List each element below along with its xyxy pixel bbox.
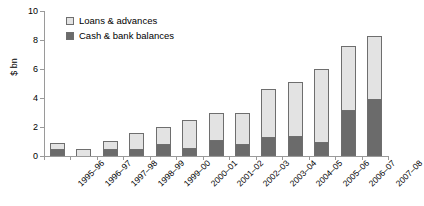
bar-segment-loans-advances <box>182 120 197 148</box>
bar-segment-cash-bank-balances <box>129 149 144 156</box>
bar-stack <box>261 89 276 156</box>
bar-segment-cash-bank-balances <box>288 136 303 156</box>
x-axis-tick-label: 1997–98 <box>129 158 159 188</box>
legend-swatch-icon <box>66 17 74 25</box>
bar-stack <box>76 149 91 156</box>
x-axis-tick-label: 2001–02 <box>235 158 265 188</box>
y-axis-tick-label: 4 <box>33 93 38 103</box>
bar-segment-loans-advances <box>341 46 356 110</box>
bar-stack <box>156 127 171 156</box>
y-axis-tick-label: 2 <box>33 122 38 132</box>
bar-stack <box>288 82 303 156</box>
legend-item-label: Cash & bank balances <box>79 30 174 41</box>
x-axis-tick-label: 2005–06 <box>341 158 371 188</box>
y-axis-tick-label: 8 <box>33 35 38 45</box>
y-axis-tick-label: 6 <box>33 64 38 74</box>
bar-segment-loans-advances <box>156 127 171 144</box>
x-axis-tick-label: 1999–00 <box>182 158 212 188</box>
bar-segment-cash-bank-balances <box>235 144 250 156</box>
bar-segment-cash-bank-balances <box>103 149 118 156</box>
bar-segment-loans-advances <box>314 69 329 142</box>
bar-segment-loans-advances <box>129 133 144 149</box>
x-axis-tick-label: 2006–07 <box>367 158 397 188</box>
bar-stack <box>182 120 197 156</box>
legend-item: Loans & advances <box>66 15 174 26</box>
bar-stack <box>341 46 356 156</box>
bar-segment-loans-advances <box>103 141 118 149</box>
y-axis-tick-label: 10 <box>28 6 38 16</box>
bar-segment-loans-advances <box>76 149 91 156</box>
bar-stack <box>209 113 224 156</box>
bar-segment-cash-bank-balances <box>50 149 65 156</box>
x-axis-tick-label: 2000–01 <box>208 158 238 188</box>
x-axis-tick-label: 2002–03 <box>261 158 291 188</box>
bar-stack <box>367 36 382 156</box>
legend-item-label: Loans & advances <box>79 15 157 26</box>
bar-segment-loans-advances <box>235 113 250 145</box>
bar-segment-cash-bank-balances <box>261 137 276 156</box>
x-axis-tick-label: 1996–97 <box>102 158 132 188</box>
bar-stack <box>103 141 118 156</box>
bar-segment-cash-bank-balances <box>341 110 356 156</box>
x-axis-labels: 1995–961996–971997–981998–991999–002000–… <box>44 158 388 206</box>
bar-segment-cash-bank-balances <box>209 140 224 156</box>
legend-swatch-icon <box>66 32 74 40</box>
x-axis-tick-label: 2004–05 <box>314 158 344 188</box>
y-axis-title: $ bn <box>9 37 19 97</box>
bar-segment-cash-bank-balances <box>156 144 171 156</box>
bar-stack <box>235 113 250 156</box>
x-axis-tick-label: 2003–04 <box>288 158 318 188</box>
bar-stack <box>314 69 329 156</box>
x-axis-tick-label: 1998–99 <box>155 158 185 188</box>
bar-segment-loans-advances <box>367 36 382 100</box>
bar-stack <box>50 143 65 156</box>
bar-segment-loans-advances <box>288 82 303 136</box>
bar-segment-loans-advances <box>209 113 224 141</box>
bar-stack <box>129 133 144 156</box>
y-axis-tick-label: 0 <box>33 151 38 161</box>
x-axis-tick-label: 1995–96 <box>76 158 106 188</box>
bar-segment-cash-bank-balances <box>314 142 329 157</box>
chart-legend: Loans & advancesCash & bank balances <box>66 15 174 45</box>
bar-segment-loans-advances <box>261 89 276 137</box>
legend-item: Cash & bank balances <box>66 30 174 41</box>
bar-segment-cash-bank-balances <box>182 148 197 156</box>
x-axis-tick-label: 2007–08 <box>393 158 423 188</box>
bar-segment-cash-bank-balances <box>367 99 382 156</box>
